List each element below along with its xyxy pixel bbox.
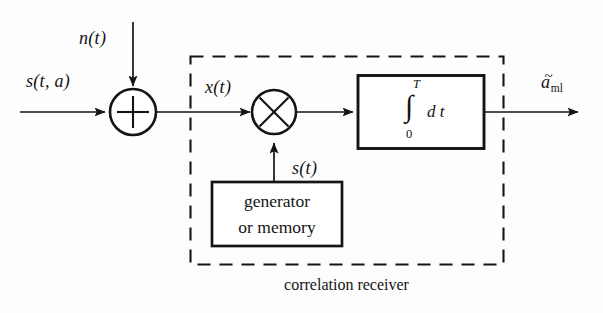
output-estimate-label: a~ml bbox=[541, 73, 562, 91]
reference-signal-label: s(t) bbox=[292, 159, 317, 177]
output-estimate-subscript: ml bbox=[551, 82, 563, 94]
block-diagram: s(t, a) n(t) x(t) s(t) a~ml T ∫ 0 d t ge… bbox=[0, 0, 603, 313]
diagram-caption: correlation receiver bbox=[190, 277, 503, 293]
integrator-block bbox=[358, 76, 484, 149]
generator-label-line1: generator bbox=[212, 193, 342, 211]
noise-input-label: n(t) bbox=[79, 29, 106, 47]
integral-lower-limit: 0 bbox=[406, 128, 412, 141]
integral-symbol: ∫ bbox=[405, 91, 413, 121]
input-signal-label: s(t, a) bbox=[26, 72, 70, 90]
generator-label-line2: or memory bbox=[212, 219, 342, 237]
integral-differential: d t bbox=[427, 103, 444, 120]
integral-upper-limit: T bbox=[413, 78, 420, 91]
received-signal-label: x(t) bbox=[205, 78, 231, 96]
